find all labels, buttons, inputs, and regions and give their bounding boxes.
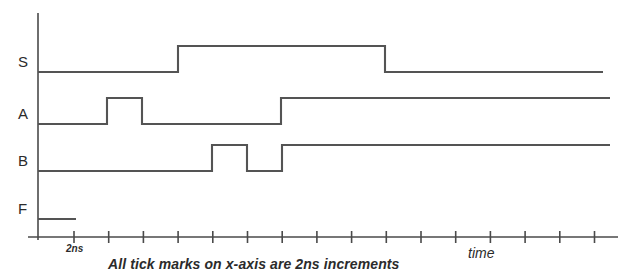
timing-diagram-canvas: SABF 2ns time — [0, 0, 625, 277]
x-axis-time-label: time — [468, 245, 495, 261]
waveform-trace-s — [38, 46, 603, 72]
figure-caption: All tick marks on x-axis are 2ns increme… — [108, 256, 399, 272]
signal-label-a: A — [18, 105, 28, 122]
tick-unit-label: 2ns — [65, 243, 84, 254]
signal-label-b: B — [18, 152, 28, 169]
timing-diagram-figure: SABF 2ns time All tick marks on x-axis a… — [0, 0, 625, 277]
waveform-traces — [38, 46, 610, 219]
waveform-trace-b — [38, 145, 610, 171]
waveform-trace-a — [38, 98, 610, 124]
signal-label-s: S — [18, 53, 28, 70]
signal-name-labels: SABF — [18, 53, 28, 217]
signal-label-f: F — [18, 200, 27, 217]
